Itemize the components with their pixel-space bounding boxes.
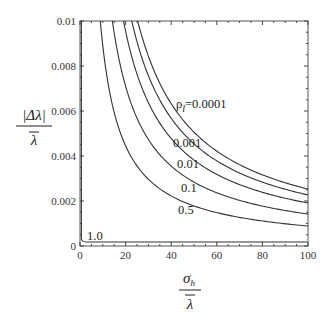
curve-label-rho-0.0001: ρl=0.0001 <box>176 97 226 114</box>
axis-ticks <box>80 21 308 246</box>
x-tick-label: 60 <box>211 249 223 261</box>
curve-label-0.001: 0.001 <box>173 136 201 150</box>
y-tick-label: 0.01 <box>57 15 76 27</box>
x-tick-label: 0 <box>77 249 83 261</box>
y-axis-label: |Δλ| λ <box>16 107 52 148</box>
chart: 02040608010000.0020.0040.0060.0080.01 ρl… <box>0 0 326 316</box>
y-tick-label: 0.004 <box>51 150 76 162</box>
curve-0.01 <box>124 21 308 203</box>
svg-text:|Δλ|: |Δλ| <box>22 107 46 123</box>
y-tick-label: 0.002 <box>51 195 76 207</box>
x-tick-label: 80 <box>257 249 269 261</box>
x-tick-label: 40 <box>166 249 178 261</box>
curve-label-1.0: 1.0 <box>87 229 103 243</box>
curve-0.5 <box>100 21 308 226</box>
x-axis-label: σh λ <box>179 270 201 312</box>
curve-label-0.01: 0.01 <box>177 157 199 171</box>
svg-text:λ: λ <box>30 132 38 148</box>
y-tick-label: 0.006 <box>51 105 76 117</box>
x-tick-label: 100 <box>300 249 317 261</box>
curves <box>81 21 308 242</box>
y-tick-label: 0.008 <box>51 60 76 72</box>
curve-label-0.1: 0.1 <box>181 181 197 195</box>
svg-text:λ: λ <box>186 296 194 312</box>
curve-0.1 <box>112 21 308 214</box>
curve-1.0 <box>81 21 307 242</box>
curve-label-0.5: 0.5 <box>178 203 194 217</box>
plot-frame <box>80 21 308 246</box>
svg-text:σh: σh <box>183 270 195 288</box>
y-tick-label: 0 <box>71 240 77 252</box>
x-tick-label: 20 <box>120 249 132 261</box>
